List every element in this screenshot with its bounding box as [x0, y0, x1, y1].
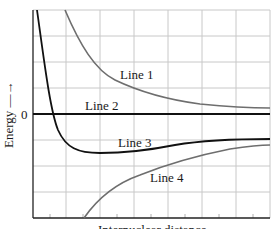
y-zero-tick-label: 0 [21, 107, 28, 122]
line-1-label: Line 1 [120, 67, 154, 82]
line-2-label: Line 2 [85, 98, 119, 113]
line-4-label: Line 4 [150, 170, 184, 185]
line-3-label: Line 3 [118, 135, 152, 150]
y-axis-label: Energy —→ [1, 81, 16, 148]
x-axis-label: Internuclear distance [98, 222, 207, 229]
energy-diagram: Line 1 Line 2 Line 3 Line 4 0 Energy —→ … [0, 0, 274, 229]
